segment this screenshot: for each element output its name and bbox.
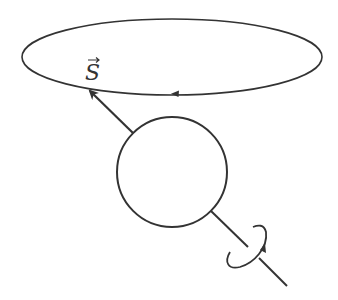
spin-axis-tail (259, 258, 287, 286)
spin-vector-label: S (85, 60, 100, 85)
spin-axis-lower (211, 211, 248, 247)
spin-precession-diagram: S (0, 0, 338, 300)
orbit-direction-arrow-icon (171, 91, 179, 98)
spinning-body (117, 117, 227, 227)
spin-vector-arrow (90, 91, 133, 133)
precession-orbit (22, 19, 322, 95)
